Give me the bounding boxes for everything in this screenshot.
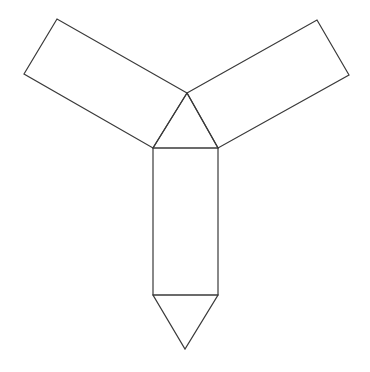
prism-net-diagram [0, 0, 370, 372]
bottom-triangle [153, 295, 218, 349]
bottom-rectangle [153, 148, 218, 295]
left-rectangle [24, 19, 187, 148]
central-triangle [153, 93, 218, 148]
right-rectangle [187, 20, 349, 148]
